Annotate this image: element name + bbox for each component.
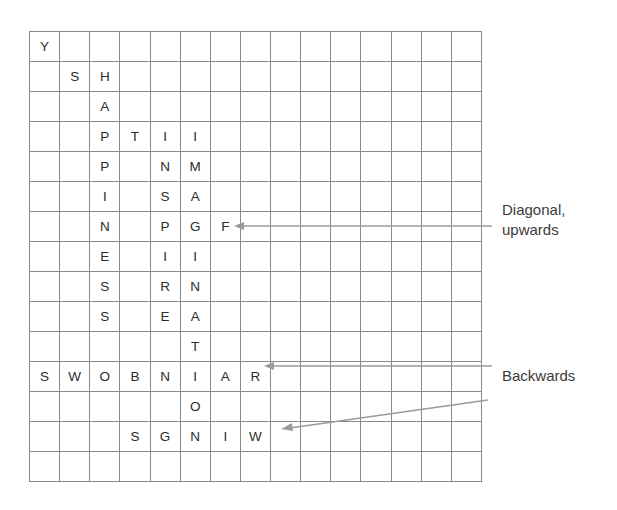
grid-cell[interactable] <box>391 122 421 152</box>
grid-cell[interactable] <box>391 242 421 272</box>
grid-cell[interactable]: H <box>90 62 120 92</box>
grid-cell[interactable] <box>421 182 451 212</box>
grid-cell[interactable] <box>391 302 421 332</box>
grid-cell[interactable] <box>421 272 451 302</box>
grid-cell[interactable] <box>301 392 331 422</box>
grid-cell[interactable]: N <box>180 272 210 302</box>
grid-cell[interactable] <box>240 332 270 362</box>
grid-cell[interactable] <box>150 332 180 362</box>
grid-cell[interactable] <box>331 182 361 212</box>
grid-cell[interactable] <box>150 452 180 482</box>
grid-cell[interactable] <box>331 92 361 122</box>
grid-cell[interactable] <box>60 302 90 332</box>
grid-cell[interactable]: I <box>210 422 240 452</box>
grid-cell[interactable] <box>271 302 301 332</box>
grid-cell[interactable]: I <box>150 122 180 152</box>
grid-cell[interactable] <box>301 422 331 452</box>
grid-cell[interactable] <box>451 452 481 482</box>
grid-cell[interactable] <box>271 452 301 482</box>
grid-cell[interactable] <box>30 152 60 182</box>
grid-cell[interactable] <box>301 62 331 92</box>
grid-cell[interactable] <box>150 392 180 422</box>
grid-cell[interactable] <box>90 332 120 362</box>
grid-cell[interactable] <box>361 182 391 212</box>
grid-cell[interactable] <box>120 452 150 482</box>
grid-cell[interactable] <box>271 122 301 152</box>
grid-cell[interactable] <box>301 302 331 332</box>
grid-cell[interactable] <box>331 362 361 392</box>
grid-cell[interactable] <box>331 332 361 362</box>
grid-cell[interactable] <box>331 242 361 272</box>
grid-cell[interactable] <box>361 272 391 302</box>
grid-cell[interactable] <box>361 332 391 362</box>
grid-cell[interactable]: T <box>120 122 150 152</box>
grid-cell[interactable]: I <box>90 182 120 212</box>
grid-cell[interactable] <box>301 242 331 272</box>
grid-cell[interactable] <box>240 182 270 212</box>
grid-cell[interactable] <box>60 182 90 212</box>
grid-cell[interactable] <box>331 422 361 452</box>
grid-cell[interactable] <box>391 92 421 122</box>
grid-cell[interactable] <box>30 62 60 92</box>
grid-cell[interactable] <box>301 182 331 212</box>
grid-cell[interactable]: N <box>90 212 120 242</box>
grid-cell[interactable] <box>240 122 270 152</box>
grid-cell[interactable] <box>451 92 481 122</box>
grid-cell[interactable]: R <box>240 362 270 392</box>
grid-cell[interactable]: S <box>90 302 120 332</box>
grid-cell[interactable]: G <box>150 422 180 452</box>
grid-cell[interactable]: N <box>150 362 180 392</box>
grid-cell[interactable] <box>150 32 180 62</box>
grid-cell[interactable] <box>421 452 451 482</box>
grid-cell[interactable] <box>180 452 210 482</box>
grid-cell[interactable] <box>120 302 150 332</box>
grid-cell[interactable] <box>361 152 391 182</box>
grid-cell[interactable] <box>210 392 240 422</box>
word-search-grid[interactable]: YSHAPTIIPNMISANPGFEIISRNSEATSWOBNIAROSGN… <box>29 31 482 482</box>
grid-cell[interactable]: W <box>240 422 270 452</box>
grid-cell[interactable] <box>30 392 60 422</box>
grid-cell[interactable] <box>120 242 150 272</box>
grid-cell[interactable] <box>120 332 150 362</box>
grid-cell[interactable] <box>361 92 391 122</box>
grid-cell[interactable]: S <box>120 422 150 452</box>
grid-cell[interactable] <box>30 122 60 152</box>
grid-cell[interactable] <box>391 182 421 212</box>
grid-cell[interactable]: N <box>180 422 210 452</box>
grid-cell[interactable] <box>331 32 361 62</box>
grid-cell[interactable] <box>331 62 361 92</box>
grid-cell[interactable]: A <box>180 182 210 212</box>
grid-cell[interactable] <box>60 32 90 62</box>
grid-cell[interactable] <box>271 272 301 302</box>
grid-cell[interactable]: O <box>90 362 120 392</box>
grid-cell[interactable] <box>30 332 60 362</box>
grid-cell[interactable] <box>391 62 421 92</box>
grid-cell[interactable] <box>301 32 331 62</box>
grid-cell[interactable] <box>90 452 120 482</box>
grid-cell[interactable] <box>120 212 150 242</box>
grid-cell[interactable] <box>451 182 481 212</box>
grid-cell[interactable] <box>451 332 481 362</box>
grid-cell[interactable] <box>180 62 210 92</box>
grid-cell[interactable] <box>150 92 180 122</box>
grid-cell[interactable] <box>361 32 391 62</box>
grid-cell[interactable] <box>421 62 451 92</box>
grid-cell[interactable] <box>90 422 120 452</box>
grid-cell[interactable] <box>331 212 361 242</box>
grid-cell[interactable] <box>60 332 90 362</box>
grid-cell[interactable] <box>271 422 301 452</box>
grid-cell[interactable] <box>210 182 240 212</box>
grid-cell[interactable] <box>451 422 481 452</box>
grid-cell[interactable] <box>30 422 60 452</box>
grid-cell[interactable] <box>271 242 301 272</box>
grid-cell[interactable] <box>391 152 421 182</box>
grid-cell[interactable] <box>120 272 150 302</box>
grid-cell[interactable] <box>421 32 451 62</box>
grid-cell[interactable] <box>150 62 180 92</box>
grid-cell[interactable] <box>361 302 391 332</box>
grid-cell[interactable] <box>180 32 210 62</box>
grid-cell[interactable] <box>240 392 270 422</box>
grid-cell[interactable] <box>60 212 90 242</box>
grid-cell[interactable] <box>271 62 301 92</box>
grid-cell[interactable]: S <box>150 182 180 212</box>
